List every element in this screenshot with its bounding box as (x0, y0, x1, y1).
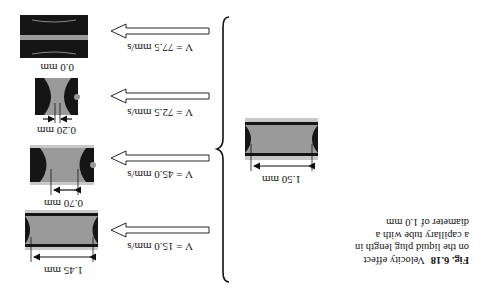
length-label-3: 0.20 mm (37, 125, 76, 137)
brace (217, 17, 229, 282)
arrow-case-2 (111, 151, 209, 165)
figure-stage: Fig. 6.18Velocity effect on the liquid p… (0, 0, 481, 299)
velocity-label-2: V = 45.0 mm/s (127, 169, 193, 181)
length-label-2: 0.70 mm (44, 198, 83, 210)
velocity-label-1: V = 15.0 mm/s (127, 241, 193, 253)
tube-case-1 (25, 210, 98, 262)
tube-case-3 (35, 78, 80, 123)
length-label-1: 1.45 mm (44, 265, 83, 277)
tube-case-4 (20, 15, 88, 58)
initial-plug-tube (245, 118, 318, 171)
arrow-case-4 (111, 24, 209, 38)
velocity-label-3: V = 72.5 mm/s (127, 107, 193, 119)
figure-graphics (0, 0, 481, 299)
length-label-4: 0.0 mm (40, 62, 74, 74)
arrow-case-1 (111, 223, 209, 237)
initial-length-label: 1.50 mm (262, 174, 301, 186)
tube-case-2 (30, 145, 96, 195)
velocity-label-4: V = 77.5 mm/s (127, 42, 193, 54)
arrow-case-3 (111, 89, 209, 103)
